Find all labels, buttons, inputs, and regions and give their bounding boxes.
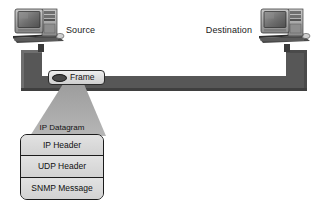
protocol-layer-udp-header: UDP Header: [21, 156, 103, 177]
destination-computer-icon: [259, 9, 310, 52]
protocol-layer-label: UDP Header: [38, 162, 86, 171]
protocol-layer-label: IP Header: [43, 141, 81, 150]
protocol-layer-ip-header: IP Header: [21, 135, 103, 156]
destination-label: Destination: [0, 26, 252, 35]
protocol-layer-label: SNMP Message: [31, 184, 92, 193]
protocol-layer-snmp-message: SNMP Message: [21, 178, 103, 199]
frame-oval-icon: [52, 74, 67, 82]
frame-callout[interactable]: Frame: [48, 70, 105, 85]
network-encapsulation-diagram: Source Destination Frame IP Datagram IP …: [0, 0, 322, 210]
ip-datagram-stack: IP Header UDP Header SNMP Message: [20, 134, 104, 200]
ip-datagram-label: IP Datagram: [0, 124, 124, 132]
frame-label: Frame: [70, 73, 95, 82]
